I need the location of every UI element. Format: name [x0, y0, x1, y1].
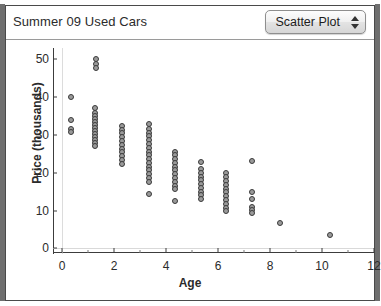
x-tick-label: 10 [315, 259, 328, 273]
y-tick-label: 20 [36, 166, 49, 180]
triangle-down-icon[interactable] [351, 24, 359, 29]
x-tick-mark [166, 248, 167, 253]
scatter-point [277, 220, 283, 226]
x-tick-mark [114, 248, 115, 253]
scatter-point [198, 196, 204, 202]
y-tick-label: 30 [36, 128, 49, 142]
scatter-point [223, 208, 229, 214]
y-tick-label: 0 [42, 241, 49, 255]
y-tick-label: 10 [36, 204, 49, 218]
x-tick-mark-minor [244, 250, 245, 253]
x-tick-mark-minor [348, 250, 349, 253]
plot-panel: Summer 09 Used Cars Scatter Plot Price (… [5, 5, 375, 301]
scatter-point [146, 179, 152, 185]
y-tick-mark [53, 172, 57, 173]
x-tick-label: 2 [111, 259, 118, 273]
plot-frame: 01020304050 024681012 [53, 48, 374, 253]
scatter-point [172, 186, 178, 192]
x-tick-mark [374, 248, 375, 253]
gridline-x-zero [62, 48, 63, 254]
scatter-point [249, 189, 255, 195]
x-tick-mark [62, 248, 63, 253]
x-tick-mark [322, 248, 323, 253]
y-tick-mark [53, 210, 57, 211]
x-tick-label: 0 [59, 259, 66, 273]
scatter-point [92, 143, 98, 149]
plot-header: Summer 09 Used Cars Scatter Plot [6, 6, 374, 40]
scatter-point [68, 117, 74, 123]
scatter-point [327, 232, 333, 238]
page-title: Summer 09 Used Cars [13, 14, 147, 29]
gridline-y-zero [53, 248, 374, 249]
x-tick-mark [218, 248, 219, 253]
x-tick-label: 6 [215, 259, 222, 273]
chart-area: Price (thousands) Age 01020304050 024681… [6, 40, 374, 300]
x-axis-label: Age [6, 276, 374, 290]
y-tick-label: 50 [36, 52, 49, 66]
x-tick-label: 12 [367, 259, 380, 273]
stepper-arrows[interactable] [347, 11, 363, 33]
y-tick-mark [53, 248, 57, 249]
scatter-point [172, 198, 178, 204]
scatter-point [249, 196, 255, 202]
x-tick-mark-minor [140, 250, 141, 253]
scatter-point [249, 210, 255, 216]
window-frame-bottom [0, 301, 380, 306]
y-tick-mark [53, 59, 57, 60]
plot-type-dropdown[interactable]: Scatter Plot [265, 10, 366, 34]
x-tick-mark-minor [192, 250, 193, 253]
window-frame-top [0, 0, 380, 4]
x-tick-mark-minor [88, 250, 89, 253]
y-axis-line [53, 48, 54, 254]
scatter-point [68, 94, 74, 100]
scatter-point [198, 159, 204, 165]
y-tick-mark [53, 134, 57, 135]
scatter-point [93, 65, 99, 71]
scatter-point [146, 191, 152, 197]
x-tick-label: 4 [163, 259, 170, 273]
y-tick-mark [53, 97, 57, 98]
triangle-up-icon[interactable] [351, 16, 359, 21]
scatter-point [249, 158, 255, 164]
x-tick-label: 8 [267, 259, 274, 273]
plot-type-dropdown-label: Scatter Plot [275, 15, 347, 29]
x-axis-line [53, 252, 374, 253]
scatter-point [68, 129, 74, 135]
x-tick-mark [270, 248, 271, 253]
x-tick-mark-minor [296, 250, 297, 253]
scatter-point [119, 161, 125, 167]
y-tick-label: 40 [36, 90, 49, 104]
